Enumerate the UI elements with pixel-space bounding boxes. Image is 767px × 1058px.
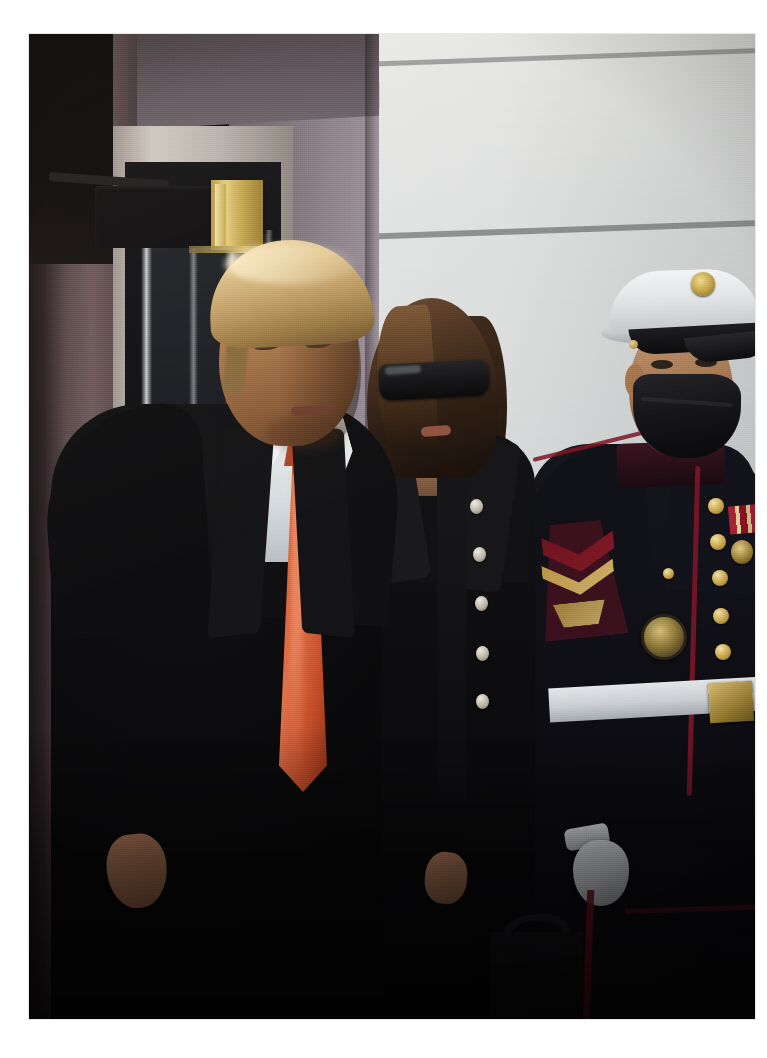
woman-coat-button: [476, 694, 489, 709]
marine-tunic-button: [712, 570, 728, 586]
marine-white-glove: [573, 840, 629, 906]
marine-small-button: [663, 568, 674, 579]
marine-medal: [731, 540, 753, 564]
brass-door-handle: [215, 184, 226, 246]
marine-tunic-button: [710, 534, 726, 550]
marine-ribbon-rack: [728, 501, 755, 534]
presidential-service-badge: [641, 614, 687, 660]
marine-eye: [651, 360, 673, 369]
pier-top-block: [125, 34, 379, 130]
woman-coat-button: [470, 499, 483, 514]
woman-coat-button: [473, 547, 486, 562]
page-canvas: [0, 0, 767, 1058]
marine-tunic-button: [708, 498, 724, 514]
photograph: [29, 34, 755, 1019]
man-hair-highlight: [225, 244, 355, 284]
woman-sunglasses: [378, 359, 490, 401]
door-closer-box: [95, 186, 215, 248]
marine-tunic-button: [713, 608, 729, 624]
eagle-globe-anchor-icon: [691, 272, 715, 296]
marine-tunic-button: [715, 644, 731, 660]
man-chin-shadow: [265, 416, 345, 450]
marine-belt-buckle: [708, 681, 754, 723]
woman-coat-button: [475, 596, 488, 611]
marine-cap-side-button: [629, 340, 638, 349]
handbag: [491, 932, 583, 1019]
woman-lips: [421, 425, 452, 437]
woman-coat-placket: [437, 470, 467, 800]
woman-coat-button: [476, 646, 489, 661]
